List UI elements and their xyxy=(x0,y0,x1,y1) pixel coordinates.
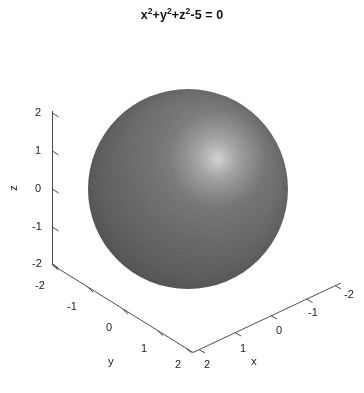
x-axis-tick-1 xyxy=(235,333,241,337)
x-axis-tick-m1 xyxy=(307,299,313,303)
y-tick-label-m1: -1 xyxy=(60,300,84,312)
y-tick-label-m2: -2 xyxy=(28,279,52,291)
y-tick-label-2: 2 xyxy=(168,358,188,370)
y-axis-label: y xyxy=(108,355,114,367)
axes-container xyxy=(0,0,364,393)
x-axis-label: x xyxy=(251,355,257,367)
x-tick-label-2: 2 xyxy=(197,358,217,370)
x-axis-tick-0 xyxy=(271,316,277,320)
y-tick-label-1: 1 xyxy=(134,342,154,354)
z-axis-tick-2 xyxy=(53,113,59,117)
z-tick-label-m1: -1 xyxy=(26,220,48,232)
z-tick-label-m2: -2 xyxy=(26,257,48,269)
implicit-surface-plot-figure: x2+y2+z2-5 = 0 xyxy=(0,0,364,393)
z-axis-label: z xyxy=(7,185,19,191)
z-axis-tick-m1 xyxy=(53,227,59,231)
z-tick-label-0: 0 xyxy=(28,182,48,194)
x-tick-label-1: 1 xyxy=(233,342,253,354)
z-axis-tick-1 xyxy=(53,151,59,155)
x-tick-label-m1: -1 xyxy=(302,306,324,318)
z-axis-tick-0 xyxy=(53,189,59,193)
x-tick-label-m2: -2 xyxy=(338,288,360,300)
y-tick-label-0: 0 xyxy=(99,321,119,333)
z-tick-label-2: 2 xyxy=(28,106,48,118)
x-axis-tick-2 xyxy=(199,350,205,354)
x-tick-label-0: 0 xyxy=(269,324,289,336)
z-tick-label-1: 1 xyxy=(28,144,48,156)
